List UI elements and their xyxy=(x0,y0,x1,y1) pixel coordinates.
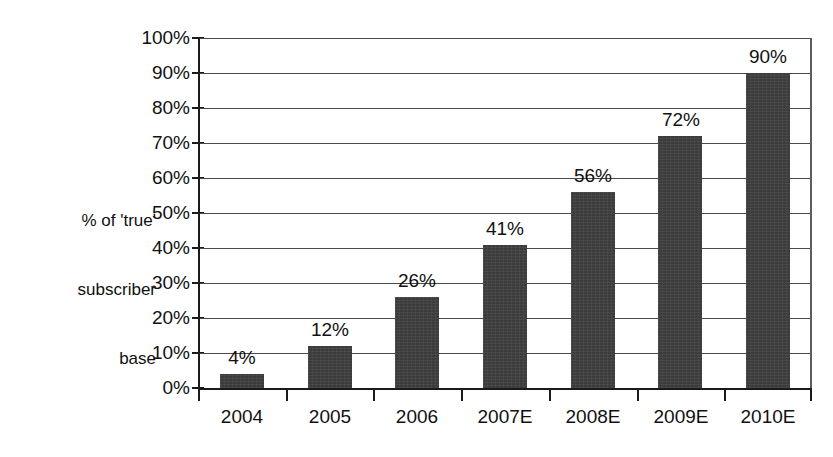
gridline xyxy=(198,143,812,144)
bar xyxy=(746,73,790,388)
gridline xyxy=(198,73,812,74)
x-axis-end-tick-mark xyxy=(198,390,200,401)
y-axis-tick-label: 100% xyxy=(120,28,190,47)
gridline xyxy=(198,108,812,109)
bar xyxy=(220,374,264,388)
bar-value-label: 90% xyxy=(724,47,812,67)
x-axis-tick-label: 2007E xyxy=(461,406,549,428)
gridline xyxy=(198,213,812,214)
x-axis-tick-label: 2006 xyxy=(373,406,461,428)
bar-value-label: 56% xyxy=(549,166,637,186)
gridline xyxy=(198,178,812,179)
y-axis-tick-label: 90% xyxy=(120,63,190,82)
y-axis-tick-label: 80% xyxy=(120,98,190,117)
gridline xyxy=(198,38,812,39)
bar-value-label: 41% xyxy=(461,219,549,239)
x-axis-tick-mark xyxy=(724,390,726,401)
y-axis-line xyxy=(198,38,200,390)
y-axis-tick-label: 50% xyxy=(120,203,190,222)
bar xyxy=(658,136,702,388)
y-axis-tick-label: 0% xyxy=(120,378,190,397)
x-axis-tick-mark xyxy=(549,390,551,401)
plot-right-border xyxy=(810,38,812,390)
x-axis-tick-label: 2010E xyxy=(724,406,812,428)
bar-value-label: 72% xyxy=(637,110,725,130)
y-axis-tick-label: 20% xyxy=(120,308,190,327)
x-axis-tick-label: 2009E xyxy=(637,406,725,428)
bar xyxy=(571,192,615,388)
y-axis-tick-label: 10% xyxy=(120,343,190,362)
y-axis-tick-label: 30% xyxy=(120,273,190,292)
x-axis-tick-mark xyxy=(373,390,375,401)
x-axis-line xyxy=(198,388,812,390)
x-axis-tick-label: 2004 xyxy=(198,406,286,428)
y-axis-tick-label: 70% xyxy=(120,133,190,152)
bar xyxy=(395,297,439,388)
x-axis-tick-mark xyxy=(286,390,288,401)
bar-value-label: 4% xyxy=(198,348,286,368)
bar-value-label: 26% xyxy=(373,271,461,291)
x-axis-tick-label: 2008E xyxy=(549,406,637,428)
bar xyxy=(308,346,352,388)
x-axis-tick-label: 2005 xyxy=(286,406,374,428)
x-axis-end-tick-mark xyxy=(810,390,812,401)
y-axis-tick-labels: 0%10%20%30%40%50%60%70%80%90%100% xyxy=(118,0,190,457)
y-axis-tick-label: 40% xyxy=(120,238,190,257)
bar-chart: % of 'true' subscriber base 0%10%20%30%4… xyxy=(0,0,833,457)
bar-value-label: 12% xyxy=(286,320,374,340)
x-axis-tick-mark xyxy=(637,390,639,401)
x-axis-tick-mark xyxy=(461,390,463,401)
y-axis-tick-label: 60% xyxy=(120,168,190,187)
bar xyxy=(483,245,527,389)
